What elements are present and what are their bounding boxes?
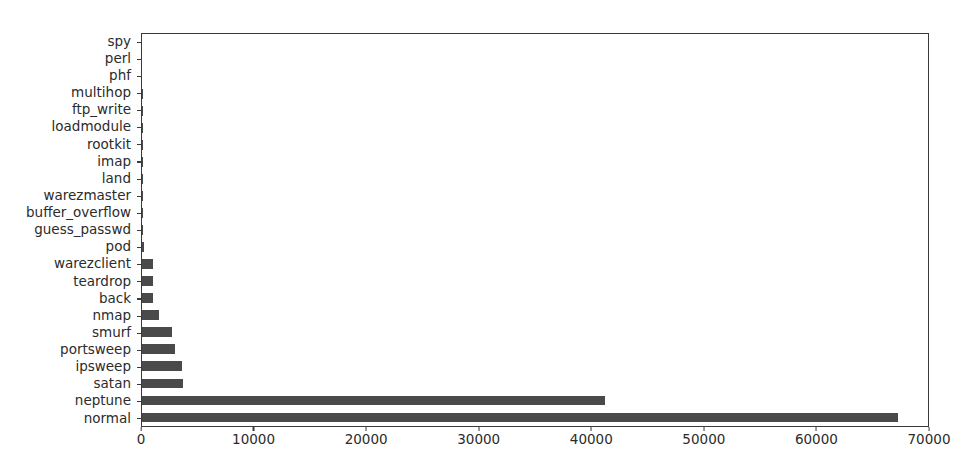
y-tick-label-loadmodule: loadmodule — [0, 119, 136, 136]
bar-slot-ftp_write — [142, 102, 928, 119]
y-tick-label-warezmaster: warezmaster — [0, 187, 136, 204]
y-axis-tick-labels: spyperlphfmultihopftp_writeloadmoduleroo… — [0, 33, 136, 427]
bar-slot-pod — [142, 239, 928, 256]
bar-slot-satan — [142, 375, 928, 392]
bar-slot-buffer_overflow — [142, 204, 928, 221]
x-tick-label: 70000 — [908, 433, 951, 447]
x-tick-20000: 20000 — [345, 427, 388, 447]
bar-slot-warezmaster — [142, 187, 928, 204]
x-tick-60000: 60000 — [795, 427, 838, 447]
bar-slot-nmap — [142, 307, 928, 324]
bar-slot-phf — [142, 68, 928, 85]
bar-portsweep[interactable] — [142, 344, 175, 354]
bar-slot-rootkit — [142, 136, 928, 153]
x-tick-label: 10000 — [232, 433, 275, 447]
y-tick-label-rootkit: rootkit — [0, 136, 136, 153]
y-tick-label-ipsweep: ipsweep — [0, 358, 136, 375]
bar-slot-portsweep — [142, 341, 928, 358]
x-tick-50000: 50000 — [682, 427, 725, 447]
bar-normal[interactable] — [142, 413, 898, 423]
x-tick-label: 50000 — [682, 433, 725, 447]
bar-back[interactable] — [142, 293, 153, 303]
x-tick-0: 0 — [137, 427, 146, 447]
bar-slot-ipsweep — [142, 358, 928, 375]
bar-ipsweep[interactable] — [142, 361, 182, 371]
y-tick-label-imap: imap — [0, 153, 136, 170]
bar-slot-neptune — [142, 392, 928, 409]
plot-area — [141, 33, 929, 427]
x-tick-10000: 10000 — [232, 427, 275, 447]
y-tick-label-nmap: nmap — [0, 307, 136, 324]
bar-slot-normal — [142, 409, 928, 426]
bar-slot-loadmodule — [142, 119, 928, 136]
y-tick-label-ftp_write: ftp_write — [0, 102, 136, 119]
y-tick-label-satan: satan — [0, 376, 136, 393]
y-tick-label-spy: spy — [0, 33, 136, 50]
bar-slot-spy — [142, 34, 928, 51]
bar-slot-multihop — [142, 85, 928, 102]
bar-slot-smurf — [142, 324, 928, 341]
bar-pod[interactable] — [142, 242, 144, 252]
y-tick-label-normal: normal — [0, 410, 136, 427]
x-tick-30000: 30000 — [457, 427, 500, 447]
y-tick-label-multihop: multihop — [0, 84, 136, 101]
bar-smurf[interactable] — [142, 327, 172, 337]
bar-slot-teardrop — [142, 273, 928, 290]
bar-nmap[interactable] — [142, 310, 159, 320]
figure-canvas: spyperlphfmultihopftp_writeloadmoduleroo… — [0, 0, 975, 470]
bar-satan[interactable] — [142, 379, 183, 389]
bar-neptune[interactable] — [142, 396, 605, 406]
y-tick-label-land: land — [0, 170, 136, 187]
bar-slot-warezclient — [142, 256, 928, 273]
bar-slot-perl — [142, 51, 928, 68]
y-tick-label-perl: perl — [0, 50, 136, 67]
y-tick-label-warezclient: warezclient — [0, 256, 136, 273]
y-tick-label-smurf: smurf — [0, 324, 136, 341]
bar-series — [142, 34, 928, 426]
bar-warezclient[interactable] — [142, 259, 153, 269]
y-tick-label-guess_passwd: guess_passwd — [0, 221, 136, 238]
y-tick-label-phf: phf — [0, 67, 136, 84]
bar-slot-back — [142, 290, 928, 307]
x-tick-label: 0 — [137, 433, 146, 447]
bar-teardrop[interactable] — [142, 276, 153, 286]
x-tick-40000: 40000 — [570, 427, 613, 447]
y-tick-label-buffer_overflow: buffer_overflow — [0, 204, 136, 221]
y-tick-label-back: back — [0, 290, 136, 307]
x-axis-ticks: 010000200003000040000500006000070000 — [141, 427, 929, 453]
x-tick-70000: 70000 — [908, 427, 951, 447]
x-tick-label: 40000 — [570, 433, 613, 447]
y-tick-label-neptune: neptune — [0, 393, 136, 410]
x-tick-label: 60000 — [795, 433, 838, 447]
x-tick-label: 20000 — [345, 433, 388, 447]
bar-slot-guess_passwd — [142, 222, 928, 239]
y-tick-label-pod: pod — [0, 239, 136, 256]
bar-slot-imap — [142, 153, 928, 170]
bar-slot-land — [142, 170, 928, 187]
x-tick-label: 30000 — [457, 433, 500, 447]
caption-sliver — [150, 463, 830, 470]
y-tick-label-teardrop: teardrop — [0, 273, 136, 290]
y-tick-label-portsweep: portsweep — [0, 341, 136, 358]
bar-guess_passwd[interactable] — [142, 225, 143, 235]
